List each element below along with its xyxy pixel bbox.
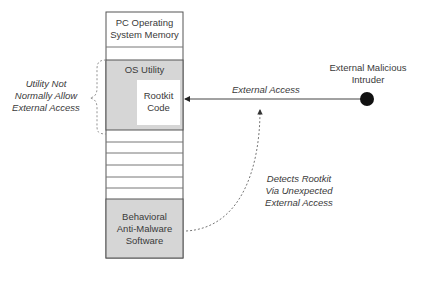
- utility-annotation-line2: Normally Allow: [4, 90, 88, 102]
- rootkit-line2: Code: [137, 102, 180, 114]
- detects-line1: Detects Rootkit: [253, 173, 345, 185]
- intruder-dot: [360, 92, 374, 106]
- memory-title: PC Operating System Memory: [106, 17, 183, 41]
- detects-line3: External Access: [253, 197, 345, 209]
- antimalware-line1: Behavioral: [106, 211, 183, 223]
- memory-title-line1: PC Operating: [106, 17, 183, 29]
- utility-annotation-line3: External Access: [4, 102, 88, 114]
- os-utility-label: OS Utility: [106, 64, 183, 76]
- utility-annotation-line1: Utility Not: [4, 78, 88, 90]
- antimalware-label: Behavioral Anti-Malware Software: [106, 211, 183, 247]
- memory-title-line2: System Memory: [106, 29, 183, 41]
- brace-dashed: [90, 60, 106, 134]
- rootkit-label: Rootkit Code: [137, 90, 180, 114]
- utility-annotation: Utility Not Normally Allow External Acce…: [4, 78, 88, 114]
- external-access-label: External Access: [232, 84, 300, 96]
- rootkit-line1: Rootkit: [137, 90, 180, 102]
- intruder-line2: Intruder: [322, 74, 414, 86]
- antimalware-line2: Anti-Malware: [106, 223, 183, 235]
- intruder-label: External Malicious Intruder: [322, 62, 414, 86]
- detects-annotation: Detects Rootkit Via Unexpected External …: [253, 173, 345, 209]
- detection-curve: [186, 110, 260, 231]
- diagram-canvas: [0, 0, 425, 287]
- detects-line2: Via Unexpected: [253, 185, 345, 197]
- intruder-line1: External Malicious: [322, 62, 414, 74]
- antimalware-line3: Software: [106, 235, 183, 247]
